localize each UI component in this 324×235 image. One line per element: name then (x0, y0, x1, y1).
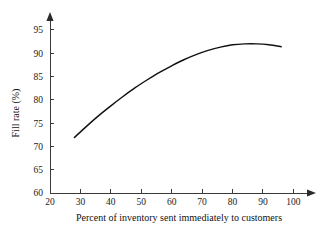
x-tick-label: 40 (106, 197, 116, 207)
line-chart-plot: 6065707580859095 2030405060708090100 Per… (0, 0, 324, 235)
x-axis-title: Percent of inventory sent immediately to… (76, 212, 282, 223)
x-tick-label: 80 (228, 197, 238, 207)
chart-container: 6065707580859095 2030405060708090100 Per… (0, 0, 324, 235)
y-tick-label: 75 (34, 119, 44, 129)
y-tick-label: 70 (34, 142, 44, 152)
y-axis-title: Fill rate (%) (10, 89, 22, 138)
x-tick-label: 70 (197, 197, 207, 207)
y-tick-label: 65 (34, 165, 44, 175)
x-tick-label: 90 (258, 197, 268, 207)
x-tick-label: 30 (76, 197, 86, 207)
y-tick-label: 90 (34, 49, 44, 59)
x-tick-label: 100 (286, 197, 301, 207)
y-axis-ticks: 6065707580859095 (34, 25, 55, 198)
y-tick-label: 60 (34, 188, 44, 198)
fill-rate-curve (74, 44, 281, 138)
y-tick-label: 80 (34, 95, 44, 105)
x-tick-label: 20 (45, 197, 55, 207)
y-axis-arrow-icon (46, 12, 53, 21)
y-tick-label: 85 (34, 72, 44, 82)
y-tick-label: 95 (34, 25, 44, 35)
x-axis-arrow-icon (307, 189, 316, 196)
x-tick-label: 50 (137, 197, 147, 207)
x-tick-label: 60 (167, 197, 177, 207)
x-axis-ticks: 2030405060708090100 (45, 189, 300, 207)
